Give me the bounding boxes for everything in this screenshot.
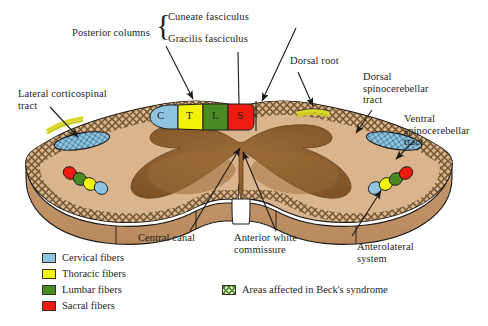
label-ventral-spinocerebellar-tract: Ventral spinocerebellar tract — [404, 113, 470, 148]
label-dorsal-spinocerebellar-tract: Dorsal spinocerebellar tract — [363, 71, 429, 106]
label-dorsal-root: Dorsal root — [290, 55, 339, 67]
legend-swatch-sacral — [42, 301, 56, 311]
legend-swatch-becks-syndrome — [222, 285, 236, 295]
dorsal-root-band — [297, 109, 330, 116]
legend-swatch-cervical — [42, 253, 56, 263]
label-lateral-corticospinal-tract: Lateral corticospinal tract — [18, 88, 107, 111]
legend-item-cervical: Cervical fibers — [42, 252, 124, 263]
segment-letter-cervical: C — [157, 110, 164, 122]
legend-label-thoracic: Thoracic fibers — [62, 268, 126, 279]
legend-item-thoracic: Thoracic fibers — [42, 268, 126, 279]
legend-label-becks-syndrome: Areas affected in Beck's syndrome — [242, 284, 388, 295]
leader-dorsal-root — [298, 72, 313, 106]
label-anterolateral-system: Anterolateral system — [357, 241, 414, 264]
legend-label-sacral: Sacral fibers — [62, 300, 115, 311]
leader-gracilis — [238, 52, 239, 104]
legend-swatch-thoracic — [42, 269, 56, 279]
segment-letter-sacral: S — [237, 110, 243, 122]
legend-item-sacral: Sacral fibers — [42, 300, 115, 311]
segment-letter-lumbar: L — [212, 110, 219, 122]
legend-item-lumbar: Lumbar fibers — [42, 284, 122, 295]
figure-canvas: Posterior columns { Cuneate fasciculus G… — [0, 0, 488, 326]
ventral-median-fissure — [232, 199, 250, 224]
legend-label-lumbar: Lumbar fibers — [62, 284, 122, 295]
segment-letter-thoracic: T — [186, 110, 193, 122]
legend-swatch-lumbar — [42, 285, 56, 295]
label-anterior-white-commissure: Anterior white commissure — [234, 232, 297, 255]
label-central-canal: Central canal — [138, 232, 195, 244]
label-posterior-columns: Posterior columns — [72, 27, 150, 39]
leader-posterior-columns — [166, 46, 193, 99]
label-cuneate-fasciculus: Cuneate fasciculus — [168, 11, 249, 23]
legend-label-cervical: Cervical fibers — [62, 252, 124, 263]
legend-item-becks-syndrome: Areas affected in Beck's syndrome — [222, 284, 388, 295]
label-gracilis-fasciculus: Gracilis fasciculus — [168, 33, 248, 45]
